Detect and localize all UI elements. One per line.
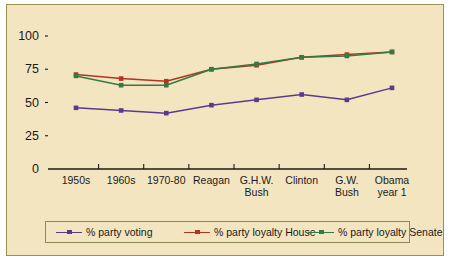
y-tick-label: 25 [25, 129, 39, 143]
x-tick-label: Obamayear 1 [375, 175, 409, 198]
series-marker [209, 67, 214, 72]
chart-figure: 0255075100 1950s1960s1970-80ReaganG.H.W.… [6, 4, 444, 256]
series-marker [345, 98, 350, 103]
x-tick-label-line: 1960s [107, 175, 136, 187]
series-marker [390, 86, 395, 91]
y-tick-label: 100 [18, 29, 39, 43]
series-marker [164, 83, 169, 88]
series-marker [209, 103, 214, 108]
series-marker [119, 76, 124, 81]
x-tick-label-line: Obama [375, 175, 409, 187]
legend-swatch-icon [56, 228, 82, 237]
legend-swatch-icon [308, 228, 334, 237]
legend-swatch-icon [184, 228, 210, 237]
x-tick-label-line: 1950s [62, 175, 91, 187]
chart-legend: % party voting% party loyalty House% par… [45, 221, 410, 243]
legend-label: % party loyalty House [214, 226, 316, 238]
x-tick-label-line: G.W. [335, 175, 359, 187]
x-tick-label-line: year 1 [375, 187, 409, 199]
series-marker [74, 74, 79, 79]
series-marker [119, 108, 124, 113]
y-tick-label: 75 [25, 62, 39, 76]
legend-label: % party loyalty Senate [338, 226, 442, 238]
series-marker [119, 83, 124, 88]
legend-entry: % party loyalty House [184, 226, 316, 238]
x-tick-label: 1960s [107, 175, 136, 187]
line-chart-plot [7, 5, 445, 257]
legend-entry: % party loyalty Senate [308, 226, 442, 238]
x-tick-label: 1950s [62, 175, 91, 187]
x-tick-label: 1970-80 [147, 175, 186, 187]
legend-entry: % party voting [56, 226, 153, 238]
x-tick-label-line: G.H.W. [240, 175, 274, 187]
x-tick-label: Clinton [285, 175, 318, 187]
series-marker [390, 50, 395, 55]
y-tick-label: 0 [32, 162, 39, 176]
series-marker [345, 54, 350, 59]
y-tick-label: 50 [25, 96, 39, 110]
x-tick-label-line: Bush [335, 187, 359, 199]
x-tick-label: Reagan [193, 175, 230, 187]
series-marker [254, 98, 259, 103]
x-tick-label: G.H.W.Bush [240, 175, 274, 198]
series-marker [164, 79, 169, 84]
series-marker [164, 111, 169, 116]
series-marker [254, 62, 259, 67]
x-tick-label-line: Reagan [193, 175, 230, 187]
x-tick-label-line: Bush [240, 187, 274, 199]
legend-label: % party voting [86, 226, 153, 238]
x-tick-label-line: Clinton [285, 175, 318, 187]
series-marker [74, 106, 79, 111]
x-tick-label-line: 1970-80 [147, 175, 186, 187]
chart-series-group [74, 50, 395, 116]
series-marker [299, 55, 304, 60]
x-tick-label: G.W.Bush [335, 175, 359, 198]
series-marker [299, 92, 304, 97]
